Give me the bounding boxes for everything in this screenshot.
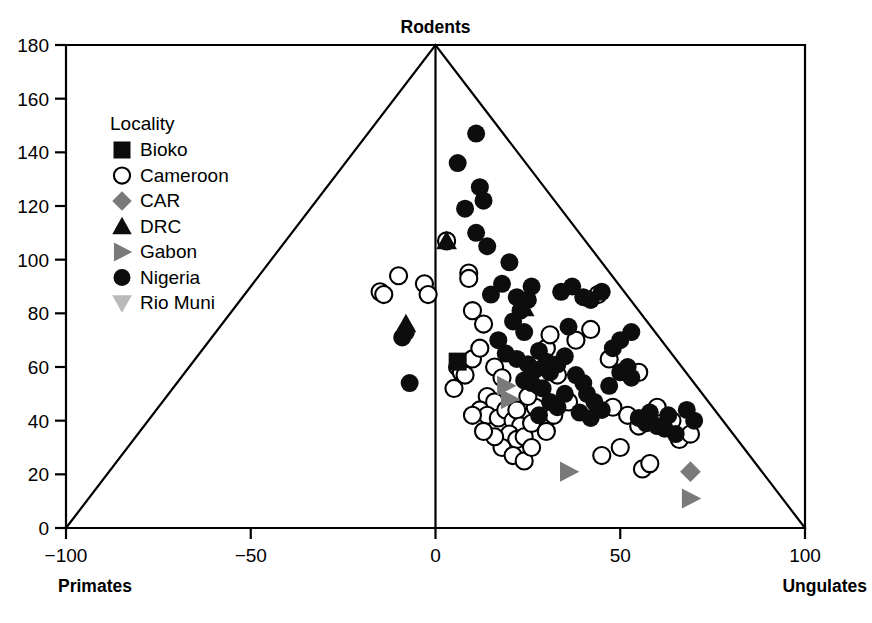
data-point-cameroon <box>612 439 629 456</box>
data-point-cameroon <box>475 316 492 333</box>
legend-label: Cameroon <box>140 165 229 186</box>
y-tick-label: 160 <box>17 89 49 110</box>
legend-item-car[interactable]: CAR <box>112 190 180 211</box>
y-tick-label: 140 <box>17 142 49 163</box>
data-point-nigeria <box>467 125 485 143</box>
x-tick-label: 50 <box>610 545 631 566</box>
data-point-nigeria <box>482 286 500 304</box>
y-tick-label: 120 <box>17 196 49 217</box>
legend-label: Nigeria <box>140 267 201 288</box>
legend-marker-bioko <box>114 142 131 159</box>
legend-label: Bioko <box>140 139 188 160</box>
ternary-scatter-figure: 020406080100120140160180−100−50050100Rod… <box>0 0 872 623</box>
series-nigeria <box>393 125 703 444</box>
data-point-nigeria <box>500 253 518 271</box>
y-tick-label: 180 <box>17 35 49 56</box>
plot-canvas: 020406080100120140160180−100−50050100Rod… <box>0 0 872 623</box>
legend-marker-cameroon <box>114 167 130 183</box>
data-point-cameroon <box>523 439 540 456</box>
data-point-bioko <box>449 353 467 371</box>
data-point-cameroon <box>460 270 477 287</box>
data-point-cameroon <box>464 407 481 424</box>
data-point-nigeria <box>622 323 640 341</box>
data-point-cameroon <box>582 321 599 338</box>
legend-label: Gabon <box>140 241 197 262</box>
data-point-cameroon <box>541 326 558 343</box>
legend-item-nigeria[interactable]: Nigeria <box>114 267 201 288</box>
legend-marker-drc <box>112 217 132 235</box>
data-point-nigeria <box>593 283 611 301</box>
legend-item-gabon[interactable]: Gabon <box>114 241 197 262</box>
data-point-gabon <box>560 462 579 482</box>
y-tick-label: 80 <box>28 303 49 324</box>
data-point-nigeria <box>475 192 493 210</box>
data-point-nigeria <box>560 318 578 336</box>
legend-marker-nigeria <box>114 269 131 286</box>
legend-title: Locality <box>110 113 175 134</box>
legend-item-rio-muni[interactable]: Rio Muni <box>112 292 215 313</box>
data-point-cameroon <box>538 423 555 440</box>
data-point-nigeria <box>401 374 419 392</box>
data-point-nigeria <box>523 278 541 296</box>
chart-legend: LocalityBiokoCameroonCARDRCGabonNigeriaR… <box>110 113 229 313</box>
data-point-drc <box>396 314 417 333</box>
data-points <box>372 125 704 509</box>
data-point-cameroon <box>475 423 492 440</box>
data-point-nigeria <box>556 347 574 365</box>
data-point-nigeria <box>478 237 496 255</box>
data-point-cameroon <box>593 447 610 464</box>
data-point-cameroon <box>445 380 462 397</box>
data-point-nigeria <box>556 385 574 403</box>
data-point-cameroon <box>471 340 488 357</box>
series-bioko <box>449 353 467 371</box>
legend-marker-gabon <box>114 242 132 261</box>
series-car <box>680 461 701 482</box>
data-point-nigeria <box>530 406 548 424</box>
legend-item-bioko[interactable]: Bioko <box>114 139 188 160</box>
data-point-nigeria <box>489 331 507 349</box>
data-point-nigeria <box>456 200 474 218</box>
legend-marker-rio-muni <box>112 295 132 313</box>
y-tick-label: 40 <box>28 411 49 432</box>
legend-label: CAR <box>140 190 180 211</box>
x-tick-label: 0 <box>430 545 441 566</box>
corner-label-top: Rodents <box>401 17 471 37</box>
x-tick-label: −100 <box>45 545 88 566</box>
y-tick-label: 20 <box>28 464 49 485</box>
data-point-nigeria <box>667 425 685 443</box>
x-tick-label: 100 <box>789 545 821 566</box>
data-point-car <box>680 461 701 482</box>
data-point-cameroon <box>420 286 437 303</box>
legend-marker-car <box>112 191 132 211</box>
data-point-gabon <box>682 488 701 508</box>
legend-label: DRC <box>140 216 181 237</box>
data-point-nigeria <box>622 369 640 387</box>
data-point-nigeria <box>593 401 611 419</box>
legend-item-cameroon[interactable]: Cameroon <box>114 165 229 186</box>
data-point-nigeria <box>685 412 703 430</box>
data-point-nigeria <box>515 323 533 341</box>
data-point-nigeria <box>659 406 677 424</box>
corner-label-bottom-right: Ungulates <box>782 576 867 596</box>
legend-label: Rio Muni <box>140 292 215 313</box>
y-tick-label: 100 <box>17 250 49 271</box>
x-tick-label: −50 <box>235 545 267 566</box>
data-point-cameroon <box>641 455 658 472</box>
y-tick-label: 60 <box>28 357 49 378</box>
legend-item-drc[interactable]: DRC <box>112 216 181 237</box>
data-point-cameroon <box>375 286 392 303</box>
data-point-nigeria <box>449 154 467 172</box>
corner-label-bottom-left: Primates <box>58 576 132 596</box>
data-point-cameroon <box>390 267 407 284</box>
y-tick-label: 0 <box>38 518 49 539</box>
